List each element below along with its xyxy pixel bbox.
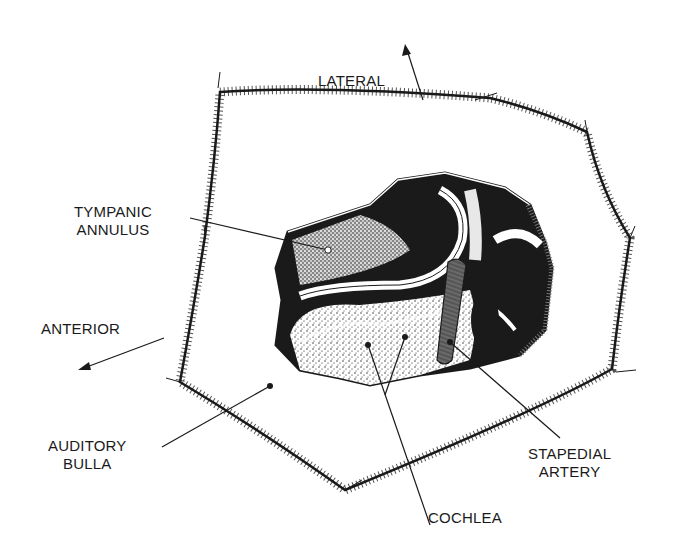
anterior-text: ANTERIOR — [41, 320, 120, 338]
cochlea-label: COCHLEA — [428, 509, 502, 527]
lateral-text: LATERAL — [318, 72, 385, 90]
auditory-bulla-label: AUDITORY BULLA — [48, 437, 127, 473]
anterior-arrow — [78, 338, 164, 370]
tympanic-annulus-label: TYMPANIC ANNULUS — [74, 203, 152, 239]
auditory-bulla-line1: AUDITORY — [48, 437, 127, 455]
stapedial-artery-line2: ARTERY — [528, 463, 611, 481]
stapedial-artery-line1: STAPEDIAL — [528, 445, 611, 463]
lateral-label: LATERAL — [318, 72, 385, 90]
stapedial-artery-label: STAPEDIAL ARTERY — [528, 445, 611, 481]
tympanic-annulus-line1: TYMPANIC — [74, 203, 152, 221]
tympanic-annulus-line2: ANNULUS — [74, 221, 152, 239]
auditory-bulla-line2: BULLA — [48, 455, 127, 473]
cochlea-text: COCHLEA — [428, 509, 502, 527]
anterior-label: ANTERIOR — [41, 320, 120, 338]
